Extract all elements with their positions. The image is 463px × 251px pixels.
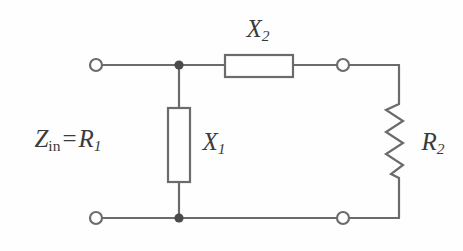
input-impedance-operator: = <box>60 125 78 152</box>
load-resistance-subscript: 2 <box>437 140 445 157</box>
input-impedance-value-subscript: 1 <box>94 137 102 154</box>
load-resistance-label: R2 <box>421 129 444 157</box>
input-terminal-top-icon <box>90 59 102 71</box>
series-reactance-symbol: X <box>246 15 261 42</box>
junction-node-top-icon <box>174 60 183 69</box>
load-resistance-symbol: R <box>421 128 436 155</box>
junction-node-bottom-icon <box>174 213 183 222</box>
input-impedance-subscript: in <box>48 137 60 154</box>
series-reactance-subscript: 2 <box>262 27 270 44</box>
input-impedance-label: Zin=R1 <box>34 126 101 154</box>
shunt-reactance-x1-body <box>168 108 190 182</box>
output-terminal-top-icon <box>337 59 349 71</box>
circuit-diagram-figure: Zin=R1 X2 X1 R2 <box>0 0 463 251</box>
shunt-reactance-symbol: X <box>202 128 217 155</box>
input-impedance-symbol: Z <box>34 125 48 152</box>
series-reactance-x2-body <box>225 55 293 77</box>
load-resistor-r2-zigzag <box>386 100 403 180</box>
shunt-reactance-label: X1 <box>202 129 225 157</box>
output-terminal-bottom-icon <box>337 212 349 224</box>
input-impedance-value-symbol: R <box>79 125 94 152</box>
series-reactance-label: X2 <box>246 16 269 44</box>
input-terminal-bottom-icon <box>90 212 102 224</box>
shunt-reactance-subscript: 1 <box>218 140 226 157</box>
